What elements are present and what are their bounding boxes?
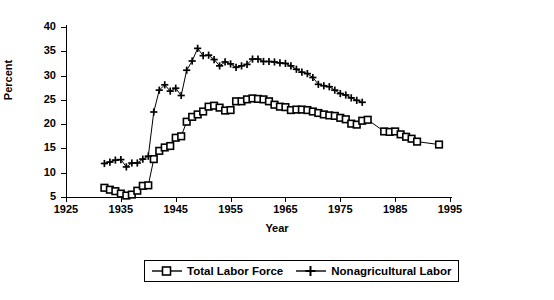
x-tick <box>450 197 451 202</box>
data-point-marker <box>403 133 410 140</box>
data-point-marker <box>189 114 196 121</box>
data-point-marker <box>288 107 295 114</box>
y-tick-label: 20 <box>10 118 56 129</box>
data-point-marker <box>194 111 201 118</box>
x-tick <box>285 197 286 202</box>
chart-figure: 510152025303540 192519351945195519651975… <box>0 0 554 300</box>
y-tick <box>61 124 66 125</box>
y-tick <box>61 76 66 77</box>
legend-label-nonagricultural-labor: Nonagricultural Labor <box>331 265 451 277</box>
data-point-marker <box>227 107 234 114</box>
x-tick-label: 1985 <box>372 203 418 215</box>
x-tick-label: 1925 <box>43 203 89 215</box>
data-point-marker <box>364 116 371 123</box>
data-point-marker <box>107 186 114 193</box>
x-axis-line <box>66 197 452 198</box>
data-point-marker <box>233 98 240 105</box>
data-point-marker <box>386 129 393 136</box>
x-tick <box>395 197 396 202</box>
y-tick-label: 15 <box>10 142 56 153</box>
data-point-marker <box>244 96 251 103</box>
data-point-marker <box>112 188 119 195</box>
data-point-marker <box>238 98 245 105</box>
series-nonagricultural-labor <box>101 45 366 171</box>
data-point-marker <box>310 108 317 115</box>
legend-label-total-labor-force: Total Labor Force <box>187 265 283 277</box>
y-axis-title: Percent <box>2 32 14 128</box>
data-point-marker <box>299 106 306 113</box>
data-point-marker <box>145 182 152 189</box>
data-point-marker <box>161 144 168 151</box>
x-tick <box>231 197 232 202</box>
chart-legend: Total Labor Force Nonagricultural Labor <box>144 260 459 282</box>
series-total-labor-force <box>101 95 442 199</box>
data-point-marker <box>337 115 344 122</box>
x-tick <box>121 197 122 202</box>
data-point-marker <box>156 148 163 155</box>
data-point-marker <box>342 116 349 123</box>
data-point-marker <box>172 134 179 141</box>
data-point-marker <box>326 112 333 119</box>
series-line <box>104 98 439 195</box>
legend-item-total-labor-force: Total Labor Force <box>152 265 283 277</box>
data-point-marker <box>101 184 108 191</box>
data-point-marker <box>408 135 415 142</box>
data-point-marker <box>271 101 278 108</box>
data-point-marker <box>348 120 355 127</box>
data-point-marker <box>293 106 300 113</box>
x-axis-title: Year <box>0 222 554 234</box>
data-point-marker <box>282 104 289 111</box>
x-tick <box>66 197 67 202</box>
y-tick-label: 30 <box>10 70 56 81</box>
data-point-marker <box>277 103 284 110</box>
data-point-marker <box>332 113 339 120</box>
data-point-marker <box>150 156 157 163</box>
y-tick-label: 10 <box>10 167 56 178</box>
data-point-marker <box>436 141 443 148</box>
data-point-marker <box>321 111 328 118</box>
x-tick <box>176 197 177 202</box>
series-line <box>104 48 362 167</box>
data-point-marker <box>359 117 366 124</box>
plus-marker-icon <box>296 265 326 277</box>
data-point-marker <box>222 107 229 114</box>
data-point-marker <box>134 187 141 194</box>
y-tick-label: 25 <box>10 94 56 105</box>
x-tick-label: 1995 <box>427 203 473 215</box>
data-point-marker <box>381 128 388 135</box>
data-point-marker <box>392 128 399 135</box>
x-tick-label: 1945 <box>153 203 199 215</box>
data-point-marker <box>266 98 273 105</box>
x-tick-label: 1965 <box>262 203 308 215</box>
x-tick <box>340 197 341 202</box>
data-point-marker <box>205 103 212 110</box>
data-point-marker <box>397 131 404 138</box>
data-point-marker <box>140 183 147 190</box>
data-point-marker <box>167 143 174 150</box>
y-tick <box>61 100 66 101</box>
data-point-marker <box>211 102 218 109</box>
y-tick-label: 40 <box>10 21 56 32</box>
y-tick <box>61 51 66 52</box>
square-marker-icon <box>152 265 182 277</box>
data-point-marker <box>260 96 267 103</box>
x-tick-label: 1975 <box>317 203 363 215</box>
data-point-marker <box>216 104 223 111</box>
x-tick-label: 1955 <box>208 203 254 215</box>
y-tick-label: 5 <box>10 191 56 202</box>
data-point-marker <box>414 138 421 145</box>
y-tick <box>61 148 66 149</box>
x-tick-label: 1935 <box>98 203 144 215</box>
data-point-marker <box>249 95 256 102</box>
y-tick-label: 35 <box>10 45 56 56</box>
legend-item-nonagricultural-labor: Nonagricultural Labor <box>296 265 451 277</box>
data-point-marker <box>200 108 207 115</box>
series-plot-layer <box>0 0 554 300</box>
data-point-marker <box>304 107 311 114</box>
data-point-marker <box>353 121 360 128</box>
y-tick <box>61 27 66 28</box>
data-point-marker <box>118 190 125 197</box>
data-point-marker <box>178 133 185 140</box>
data-point-marker <box>255 96 262 103</box>
data-point-marker <box>183 118 190 125</box>
